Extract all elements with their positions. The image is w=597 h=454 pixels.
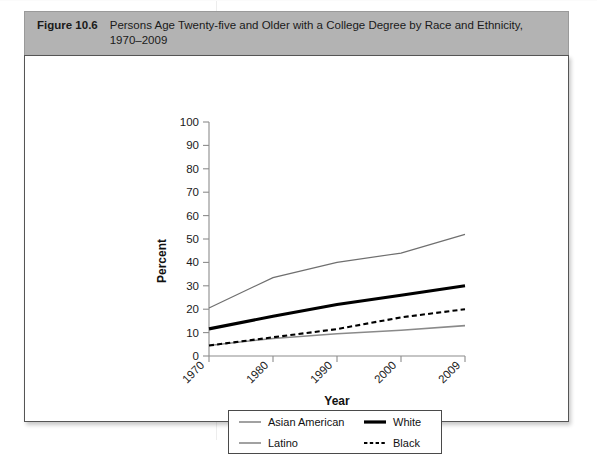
y-tick-label: 70	[186, 186, 199, 198]
legend-label: Asian American	[268, 416, 344, 428]
legend-item-black: Black	[364, 437, 453, 449]
figure-container: Figure 10.6 Persons Age Twenty-five and …	[24, 11, 569, 422]
page-scan-edge	[0, 0, 597, 1]
dashed-line-swatch-icon	[364, 439, 386, 447]
figure-caption-bar: Figure 10.6 Persons Age Twenty-five and …	[24, 11, 569, 55]
legend-item-latino: Latino	[239, 437, 364, 449]
legend-label: Black	[393, 437, 420, 449]
y-axis-tick-labels: 100 90 80 70 60 50 40 30 20 10 0	[180, 116, 199, 362]
x-axis-title: Year	[324, 394, 350, 408]
x-tick-label: 2009	[436, 359, 463, 386]
legend-item-white: White	[364, 416, 453, 428]
x-axis-ticks	[209, 356, 465, 362]
thick-line-swatch-icon	[364, 418, 386, 426]
y-tick-label: 50	[186, 233, 199, 245]
x-tick-label: 2000	[372, 359, 399, 386]
x-tick-label: 1980	[244, 359, 271, 386]
legend-label: Latino	[268, 437, 298, 449]
figure-number: Figure 10.6	[37, 18, 110, 33]
x-tick-label: 1970	[180, 359, 207, 386]
y-axis-ticks	[203, 122, 209, 356]
series-line-white	[209, 286, 465, 329]
x-tick-label: 1990	[308, 359, 335, 386]
legend-label: White	[393, 416, 421, 428]
series-line-latino	[209, 326, 465, 346]
y-tick-label: 90	[186, 139, 199, 151]
y-tick-label: 20	[186, 303, 199, 315]
legend-item-asian-american: Asian American	[239, 416, 364, 428]
y-tick-label: 10	[186, 327, 199, 339]
thin-line-swatch-icon	[239, 418, 261, 426]
y-tick-label: 100	[180, 116, 199, 128]
y-tick-label: 60	[186, 210, 199, 222]
series-line-black	[209, 309, 465, 345]
line-chart: 100 90 80 70 60 50 40 30 20 10 0 Percent	[25, 56, 570, 423]
y-tick-label: 30	[186, 280, 199, 292]
y-tick-label: 80	[186, 163, 199, 175]
x-axis-tick-labels: 1970 1980 1990 2000 2009	[180, 359, 463, 386]
figure-title: Persons Age Twenty-five and Older with a…	[110, 18, 540, 48]
y-axis-title: Percent	[155, 239, 169, 283]
chart-panel: 100 90 80 70 60 50 40 30 20 10 0 Percent	[24, 55, 569, 422]
thin-line-swatch-icon	[239, 439, 261, 447]
chart-legend: Asian American White Latino Black	[228, 410, 442, 454]
series-line-asian-american	[209, 234, 465, 308]
y-tick-label: 40	[186, 256, 199, 268]
